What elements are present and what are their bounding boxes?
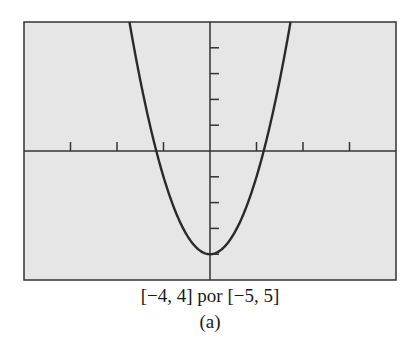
panel-label: (a) [0,311,420,333]
graph-window [0,0,420,285]
window-caption: [−4, 4] por [−5, 5] [0,285,420,307]
